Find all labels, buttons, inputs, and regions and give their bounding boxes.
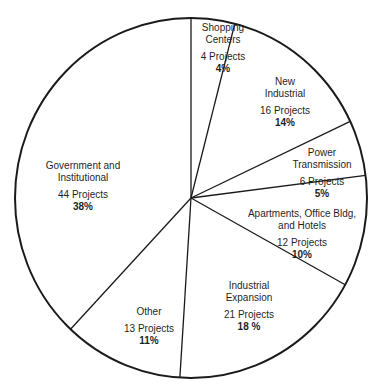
label-other: Other 13 Projects 11% (124, 306, 174, 347)
label-shopping-centers: Shopping Centers 4 Projects 4% (201, 22, 245, 75)
label-power-transmission: Power Transmission 6 Projects 5% (292, 147, 351, 200)
label-new-industrial: New Industrial 16 Projects 14% (260, 76, 310, 129)
label-industrial-expansion: Industrial Expansion 21 Projects 18 % (224, 280, 274, 333)
label-apartments-office-hotels: Apartments, Office Bldg, and Hotels 12 P… (248, 208, 356, 261)
label-government-institutional: Government and Institutional 44 Projects… (46, 160, 121, 213)
